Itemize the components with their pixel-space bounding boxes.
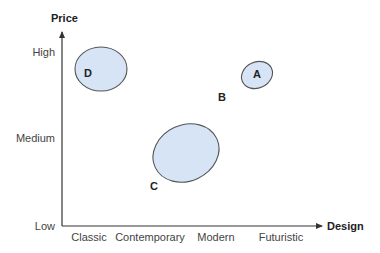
ellipse-d	[75, 47, 127, 91]
x-axis-title: Design	[327, 220, 364, 232]
x-tick-contemporary: Contemporary	[115, 231, 185, 243]
x-tick-classic: Classic	[71, 231, 107, 243]
point-label-b: B	[218, 91, 226, 103]
y-tick-medium: Medium	[16, 132, 55, 144]
perceptual-map: Price Design High Medium Low Classic Con…	[0, 0, 380, 253]
y-tick-low: Low	[35, 220, 55, 232]
x-tick-futuristic: Futuristic	[259, 231, 304, 243]
y-tick-high: High	[32, 46, 55, 58]
point-label-a: A	[253, 68, 261, 80]
point-label-c: C	[150, 180, 158, 192]
point-label-d: D	[84, 67, 92, 79]
y-axis-title: Price	[51, 12, 78, 24]
x-tick-modern: Modern	[197, 231, 234, 243]
